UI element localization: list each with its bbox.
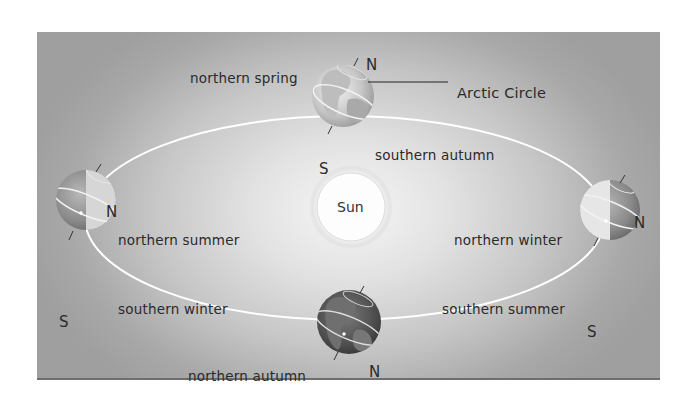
south-pole-label-top: S xyxy=(319,162,329,177)
north-pole-label-right: N xyxy=(634,216,645,231)
earth-globe-bottom-icon xyxy=(312,286,387,360)
south-pole-label-right: S xyxy=(587,325,597,340)
north-pole-label-left: N xyxy=(106,205,117,220)
label-southern-winter: southern winter xyxy=(118,303,228,317)
label-northern-autumn: northern autumn xyxy=(188,370,306,384)
north-pole-label-bottom: N xyxy=(369,365,380,380)
earth-globe-top-icon xyxy=(309,58,448,134)
arctic-circle-label: Arctic Circle xyxy=(457,86,546,101)
south-pole-label-left: S xyxy=(59,315,69,330)
label-southern-summer: southern summer xyxy=(442,303,565,317)
label-southern-autumn: southern autumn xyxy=(375,149,495,163)
label-northern-spring: northern spring xyxy=(190,72,298,86)
earth-globe-right-icon xyxy=(573,175,647,246)
label-northern-winter: northern winter xyxy=(454,234,562,248)
earth-globe-left-icon xyxy=(49,164,126,240)
label-northern-summer: northern summer xyxy=(118,234,239,248)
north-pole-label-top: N xyxy=(366,58,377,73)
sun-label: Sun xyxy=(337,200,364,214)
